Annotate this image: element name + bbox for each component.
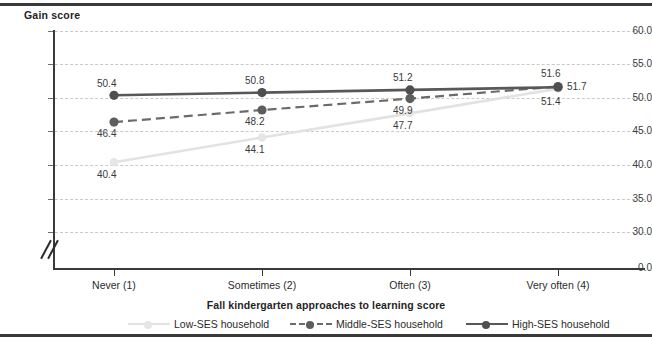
legend-item-low-ses[interactable]: Low-SES household bbox=[128, 316, 269, 332]
legend-label-low-ses: Low-SES household bbox=[174, 318, 269, 330]
value-label-middle-2: 48.2 bbox=[245, 116, 264, 127]
value-label-high-3: 51.2 bbox=[393, 72, 412, 83]
value-label-high-4: 51.6 bbox=[541, 68, 560, 79]
chart-container: Gain score 60.0 55.0 50.0 45.0 40.0 35.0… bbox=[0, 0, 652, 341]
series-low-ses bbox=[110, 84, 562, 166]
point-middle-1 bbox=[109, 118, 118, 127]
series-low-ses-line bbox=[114, 89, 558, 163]
point-high-1 bbox=[109, 91, 118, 100]
point-high-4 bbox=[553, 83, 562, 92]
value-label-middle-3: 49.9 bbox=[393, 105, 412, 116]
legend-swatch-high-ses-icon bbox=[466, 319, 508, 329]
point-low-2 bbox=[258, 133, 266, 141]
value-label-low-3: 47.7 bbox=[393, 120, 412, 131]
point-middle-2 bbox=[257, 105, 266, 114]
point-low-1 bbox=[110, 158, 118, 166]
legend: Low-SES household Middle-SES household H… bbox=[0, 316, 652, 332]
legend-item-middle-ses[interactable]: Middle-SES household bbox=[290, 316, 443, 332]
point-middle-3 bbox=[405, 94, 414, 103]
value-label-middle-4: 51.7 bbox=[567, 81, 586, 92]
value-label-high-1: 50.4 bbox=[97, 78, 116, 89]
point-high-2 bbox=[257, 88, 266, 97]
value-label-low-4: 51.4 bbox=[541, 96, 560, 107]
legend-label-high-ses: High-SES household bbox=[512, 318, 609, 330]
value-label-middle-1: 46.4 bbox=[97, 128, 116, 139]
value-label-high-2: 50.8 bbox=[245, 75, 264, 86]
legend-label-middle-ses: Middle-SES household bbox=[336, 318, 443, 330]
plot-area: 60.0 55.0 50.0 45.0 40.0 35.0 30.0 0.0 N… bbox=[0, 0, 652, 341]
point-high-3 bbox=[405, 85, 414, 94]
legend-item-high-ses[interactable]: High-SES household bbox=[466, 316, 609, 332]
value-label-low-1: 40.4 bbox=[97, 169, 116, 180]
legend-swatch-middle-ses-icon bbox=[290, 319, 332, 329]
value-label-low-2: 44.1 bbox=[245, 144, 264, 155]
legend-swatch-low-ses-icon bbox=[128, 319, 170, 329]
